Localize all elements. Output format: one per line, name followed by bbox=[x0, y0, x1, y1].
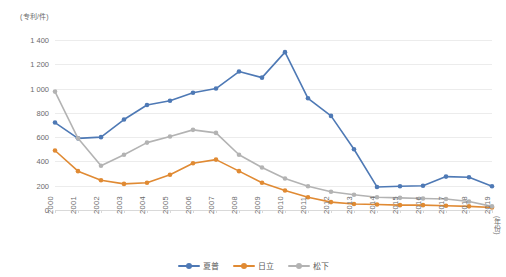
x-tick-mark bbox=[193, 210, 194, 213]
x-tick-label: 2016 bbox=[414, 196, 423, 214]
plot-area bbox=[0, 0, 506, 277]
chart-legend: 夏普日立松下 bbox=[0, 260, 506, 271]
x-tick-label: 2009 bbox=[253, 196, 262, 214]
x-tick-mark bbox=[55, 210, 56, 213]
data-point bbox=[329, 189, 334, 194]
x-tick-mark bbox=[262, 210, 263, 213]
data-point bbox=[122, 117, 127, 122]
data-point bbox=[260, 180, 265, 185]
x-tick-mark bbox=[101, 210, 102, 213]
x-tick-mark bbox=[78, 210, 79, 213]
data-point bbox=[76, 136, 81, 141]
data-point bbox=[283, 50, 288, 55]
x-tick-mark bbox=[124, 210, 125, 213]
legend-marker-icon bbox=[233, 265, 255, 267]
x-tick-label: 2002 bbox=[92, 196, 101, 214]
x-tick-label: 2013 bbox=[345, 196, 354, 214]
series-line bbox=[55, 52, 492, 187]
x-axis-unit-label: (年份) bbox=[492, 216, 502, 235]
data-point bbox=[467, 175, 472, 180]
data-point bbox=[145, 103, 150, 108]
data-point bbox=[444, 174, 449, 179]
x-tick-label: 2001 bbox=[69, 196, 78, 214]
x-tick-label: 2017 bbox=[437, 196, 446, 214]
x-tick-mark bbox=[492, 210, 493, 213]
data-point bbox=[306, 96, 311, 101]
x-tick-mark bbox=[285, 210, 286, 213]
data-point bbox=[168, 172, 173, 177]
data-point bbox=[260, 75, 265, 80]
x-tick-mark bbox=[446, 210, 447, 213]
data-point bbox=[260, 165, 265, 170]
data-point bbox=[214, 131, 219, 136]
data-point bbox=[53, 120, 58, 125]
data-point bbox=[191, 91, 196, 96]
x-tick-mark bbox=[147, 210, 148, 213]
x-tick-label: 2011 bbox=[299, 197, 308, 214]
data-point bbox=[145, 140, 150, 145]
data-point bbox=[283, 176, 288, 181]
legend-marker-icon bbox=[178, 265, 200, 267]
data-point bbox=[53, 148, 58, 153]
line-chart: (专利/件) 02004006008001 0001 2001 400 2000… bbox=[0, 0, 506, 277]
x-tick-label: 2000 bbox=[46, 196, 55, 214]
data-point bbox=[99, 178, 104, 183]
x-tick-mark bbox=[377, 210, 378, 213]
x-tick-mark bbox=[354, 210, 355, 213]
x-tick-mark bbox=[331, 210, 332, 213]
x-tick-label: 2010 bbox=[276, 196, 285, 214]
legend-label: 日立 bbox=[258, 260, 274, 271]
data-point bbox=[237, 69, 242, 74]
data-point bbox=[76, 169, 81, 174]
x-tick-mark bbox=[423, 210, 424, 213]
data-point bbox=[237, 152, 242, 157]
x-tick-label: 2005 bbox=[161, 196, 170, 214]
data-point bbox=[145, 180, 150, 185]
x-tick-label: 2014 bbox=[368, 196, 377, 214]
data-point bbox=[283, 188, 288, 193]
data-point bbox=[490, 184, 495, 189]
x-tick-mark bbox=[170, 210, 171, 213]
series-line bbox=[55, 92, 492, 207]
x-tick-label: 2015 bbox=[391, 196, 400, 214]
legend-marker-icon bbox=[288, 265, 310, 267]
data-point bbox=[375, 185, 380, 190]
data-point bbox=[99, 163, 104, 168]
x-tick-label: 2012 bbox=[322, 196, 331, 214]
x-tick-label: 2018 bbox=[460, 196, 469, 214]
data-point bbox=[168, 98, 173, 103]
x-tick-label: 2006 bbox=[184, 196, 193, 214]
data-point bbox=[352, 147, 357, 152]
data-point bbox=[398, 184, 403, 189]
x-tick-label: 2003 bbox=[115, 196, 124, 214]
data-point bbox=[214, 86, 219, 91]
data-point bbox=[53, 89, 58, 94]
data-point bbox=[421, 183, 426, 188]
x-tick-mark bbox=[216, 210, 217, 213]
data-point bbox=[168, 134, 173, 139]
x-tick-mark bbox=[308, 210, 309, 213]
data-point bbox=[122, 182, 127, 187]
x-tick-label: 2008 bbox=[230, 196, 239, 214]
data-point bbox=[329, 114, 334, 119]
x-tick-label: 2019 bbox=[483, 196, 492, 214]
legend-item[interactable]: 松下 bbox=[288, 260, 329, 271]
data-point bbox=[191, 128, 196, 133]
x-tick-mark bbox=[400, 210, 401, 213]
data-point bbox=[306, 184, 311, 189]
data-point bbox=[214, 157, 219, 162]
x-tick-label: 2007 bbox=[207, 196, 216, 214]
legend-item[interactable]: 日立 bbox=[233, 260, 274, 271]
x-tick-label: 2004 bbox=[138, 196, 147, 214]
legend-label: 夏普 bbox=[203, 260, 219, 271]
x-tick-mark bbox=[239, 210, 240, 213]
legend-label: 松下 bbox=[313, 260, 329, 271]
data-point bbox=[191, 161, 196, 166]
x-tick-mark bbox=[469, 210, 470, 213]
data-point bbox=[122, 152, 127, 157]
data-point bbox=[99, 135, 104, 140]
data-point bbox=[237, 169, 242, 174]
legend-item[interactable]: 夏普 bbox=[178, 260, 219, 271]
